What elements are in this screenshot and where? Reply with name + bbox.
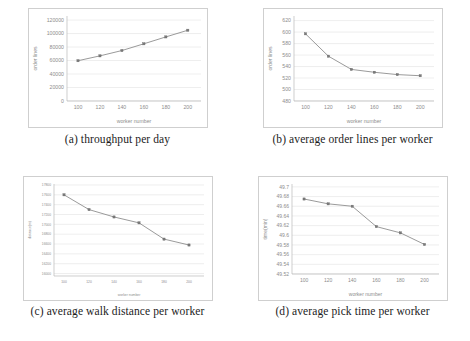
svg-text:49.6: 49.6 [279, 232, 289, 238]
svg-text:120: 120 [323, 277, 332, 283]
chart-average-walk-distance-per-worker: 1600016200164001660016800170001720017400… [24, 177, 212, 300]
svg-text:49.58: 49.58 [276, 242, 289, 248]
svg-text:600: 600 [282, 29, 291, 35]
subfigure-c: 1600016200164001660016800170001720017400… [0, 170, 235, 341]
svg-text:140: 140 [347, 104, 356, 110]
svg-text:49.66: 49.66 [276, 203, 289, 209]
svg-text:worker number: worker number [116, 118, 151, 124]
plot-frame-b: 4805005205405605806006201001201401601802… [263, 8, 443, 128]
svg-text:time(min): time(min) [262, 218, 268, 239]
svg-text:40000: 40000 [49, 71, 64, 77]
svg-text:520: 520 [282, 75, 291, 81]
svg-text:17600: 17600 [41, 193, 50, 197]
svg-text:200: 200 [183, 104, 192, 110]
plot-frame-a: 0200004000060000800001000001200001001201… [28, 8, 208, 128]
svg-text:worker number: worker number [117, 293, 140, 297]
caption-d: (d) average pick time per worker [275, 305, 429, 317]
svg-text:200: 200 [186, 280, 192, 284]
svg-text:49.54: 49.54 [276, 261, 289, 267]
svg-text:160: 160 [136, 280, 142, 284]
svg-text:100: 100 [73, 104, 82, 110]
svg-text:16400: 16400 [41, 252, 50, 256]
svg-text:17200: 17200 [41, 213, 50, 217]
svg-text:120: 120 [95, 104, 104, 110]
svg-text:distance(m): distance(m) [28, 221, 32, 239]
svg-text:0: 0 [61, 98, 64, 104]
svg-text:160: 160 [372, 277, 381, 283]
caption-a: (a) throughput per day [65, 133, 170, 145]
svg-text:180: 180 [396, 277, 405, 283]
svg-text:140: 140 [111, 280, 117, 284]
svg-text:120: 120 [324, 104, 333, 110]
svg-text:order lines: order lines [32, 46, 38, 71]
plot-frame-d: 49.5249.5449.5649.5849.649.6249.6449.664… [258, 176, 448, 301]
svg-text:200: 200 [415, 104, 424, 110]
svg-text:160: 160 [139, 104, 148, 110]
svg-text:20000: 20000 [49, 84, 64, 90]
svg-text:worker number: worker number [348, 291, 382, 297]
svg-text:worker number: worker number [346, 118, 381, 124]
svg-text:100000: 100000 [46, 30, 63, 36]
svg-text:560: 560 [282, 52, 291, 58]
chart-average-order-lines-per-worker: 4805005205405605806006201001201401601802… [264, 9, 442, 127]
svg-text:16600: 16600 [41, 242, 50, 246]
svg-text:16000: 16000 [41, 272, 50, 276]
subfigure-d: 49.5249.5449.5649.5849.649.6249.6449.664… [235, 170, 470, 341]
svg-text:120: 120 [86, 280, 92, 284]
subfigure-a: 0200004000060000800001000001200001001201… [0, 0, 235, 170]
svg-text:80000: 80000 [49, 44, 64, 50]
chart-average-pick-time-per-worker: 49.5249.5449.5649.5849.649.6249.6449.664… [259, 177, 447, 300]
svg-text:180: 180 [392, 104, 401, 110]
svg-text:500: 500 [282, 86, 291, 92]
svg-text:480: 480 [282, 98, 291, 104]
svg-text:180: 180 [161, 280, 167, 284]
caption-c: (c) average walk distance per worker [31, 305, 205, 317]
svg-text:49.56: 49.56 [276, 251, 289, 257]
svg-text:16800: 16800 [41, 232, 50, 236]
svg-text:49.52: 49.52 [276, 271, 289, 277]
svg-text:49.7: 49.7 [279, 184, 289, 190]
svg-text:17400: 17400 [41, 203, 50, 207]
chart-throughput-per-day: 0200004000060000800001000001200001001201… [29, 9, 207, 127]
svg-text:17000: 17000 [41, 223, 50, 227]
plot-frame-c: 1600016200164001660016800170001720017400… [23, 176, 213, 301]
svg-text:120000: 120000 [46, 17, 63, 23]
svg-text:49.68: 49.68 [276, 193, 289, 199]
svg-text:200: 200 [420, 277, 429, 283]
subfigure-b: 4805005205405605806006201001201401601802… [235, 0, 470, 170]
svg-text:16200: 16200 [41, 262, 50, 266]
svg-text:160: 160 [369, 104, 378, 110]
svg-text:60000: 60000 [49, 57, 64, 63]
svg-text:140: 140 [117, 104, 126, 110]
svg-text:order lines: order lines [267, 46, 273, 71]
svg-text:49.64: 49.64 [276, 213, 289, 219]
figure-grid: 0200004000060000800001000001200001001201… [0, 0, 470, 341]
svg-text:620: 620 [282, 17, 291, 23]
svg-text:49.62: 49.62 [276, 222, 289, 228]
svg-text:17800: 17800 [41, 183, 50, 187]
caption-b: (b) average order lines per worker [272, 133, 432, 145]
svg-text:140: 140 [348, 277, 357, 283]
svg-text:100: 100 [299, 277, 308, 283]
svg-text:100: 100 [61, 280, 67, 284]
svg-text:540: 540 [282, 63, 291, 69]
svg-text:180: 180 [161, 104, 170, 110]
svg-text:100: 100 [301, 104, 310, 110]
svg-text:580: 580 [282, 40, 291, 46]
